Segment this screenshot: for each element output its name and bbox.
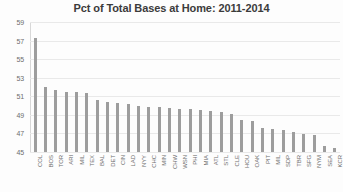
bar	[96, 100, 99, 152]
y-axis-tick-label: 47	[0, 130, 24, 137]
bar	[75, 92, 78, 152]
y-axis-tick-label: 49	[0, 111, 24, 118]
y-axis-tick-label: 53	[0, 74, 24, 81]
bar	[302, 134, 305, 152]
x-axis-tick-label: BOS	[48, 155, 54, 167]
bar	[178, 109, 181, 152]
bar	[34, 38, 37, 152]
bar	[199, 110, 202, 152]
bar	[85, 93, 88, 152]
x-axis-tick-label: NYY	[141, 155, 147, 167]
bar	[127, 104, 130, 152]
bar	[54, 90, 57, 152]
x-axis-tick-label: DET	[110, 155, 116, 167]
x-axis-tick-label: TEX	[89, 155, 95, 166]
bar	[137, 106, 140, 152]
y-axis-tick-label: 59	[0, 19, 24, 26]
gridline	[30, 78, 340, 79]
x-axis-tick-label: PHI	[192, 155, 198, 165]
bar	[313, 135, 316, 152]
bar	[209, 111, 212, 152]
x-axis-tick-label: CLE	[234, 155, 240, 166]
x-axis-tick-label: CIN	[120, 155, 126, 165]
x-axis-tick-label: SEA	[327, 155, 333, 167]
gridline	[30, 152, 340, 153]
x-axis-tick-label: TBR	[296, 155, 302, 167]
x-axis-tick-label: PIT	[265, 155, 271, 164]
x-axis-tick-label: MIL	[79, 155, 85, 165]
y-axis-tick-label: 55	[0, 56, 24, 63]
x-axis-tick-label: MIL	[275, 155, 281, 165]
bar	[158, 107, 161, 152]
x-axis-tick-label: MIA	[203, 155, 209, 165]
bar	[168, 108, 171, 152]
bar	[147, 107, 150, 153]
bar	[261, 128, 264, 152]
gridline	[30, 22, 340, 23]
plot-area	[30, 22, 340, 152]
x-axis-tick-label: MIN	[161, 155, 167, 166]
bar	[230, 114, 233, 152]
bar	[106, 102, 109, 152]
x-axis-tick-label: SDP	[285, 155, 291, 167]
gridline	[30, 59, 340, 60]
x-axis-labels: COLBOSTORARIMILTEXBALDETCINLADNYYCHCMINC…	[30, 155, 340, 192]
x-axis-tick-label: LAD	[130, 155, 136, 166]
x-axis-tick-label: KCR	[337, 155, 343, 167]
bar	[333, 148, 336, 152]
y-axis-tick-label: 57	[0, 37, 24, 44]
y-axis-tick-label: 51	[0, 93, 24, 100]
x-axis-tick-label: BAL	[99, 155, 105, 166]
y-axis-tick-label: 45	[0, 149, 24, 156]
x-axis-tick-label: ARI	[68, 155, 74, 165]
bar	[251, 121, 254, 152]
x-axis-tick-label: CHW	[172, 155, 178, 169]
bar	[292, 132, 295, 152]
x-axis-tick-label: TOR	[58, 155, 64, 167]
x-axis-tick-label: ATL	[213, 155, 219, 165]
chart-title: Pct of Total Bases at Home: 2011-2014	[0, 2, 343, 14]
x-axis-tick-label: OAK	[254, 155, 260, 167]
bar	[271, 129, 274, 152]
bar-chart: Pct of Total Bases at Home: 2011-2014 CO…	[0, 0, 343, 192]
gridline	[30, 41, 340, 42]
bar	[240, 120, 243, 152]
x-axis-tick-label: HOU	[244, 155, 250, 168]
bar	[189, 109, 192, 152]
x-axis-tick-label: WSN	[182, 155, 188, 169]
x-axis-tick-label: NYM	[316, 155, 322, 168]
bar	[65, 92, 68, 152]
x-axis-tick-label: CHC	[151, 155, 157, 168]
x-axis-tick-label: SFG	[306, 155, 312, 167]
x-axis-tick-label: COL	[37, 155, 43, 167]
x-axis-tick-label: STL	[223, 155, 229, 166]
bar	[220, 112, 223, 152]
bar	[282, 130, 285, 152]
bar	[44, 87, 47, 152]
bar	[116, 103, 119, 152]
bar	[323, 146, 326, 152]
